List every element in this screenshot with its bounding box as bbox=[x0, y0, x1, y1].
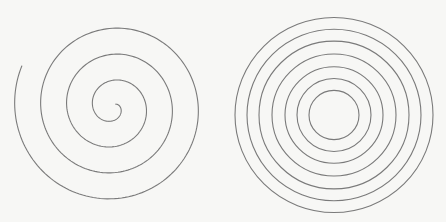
ring-4 bbox=[272, 54, 396, 176]
rings-group bbox=[235, 17, 433, 212]
spiral-panel bbox=[0, 0, 223, 222]
ring-1 bbox=[309, 90, 359, 139]
concentric-circles-panel bbox=[223, 0, 446, 222]
spiral-line bbox=[15, 28, 199, 199]
ring-3 bbox=[285, 67, 383, 164]
ring-7 bbox=[235, 17, 433, 212]
concentric-circles-figure bbox=[223, 0, 446, 222]
ring-6 bbox=[247, 29, 421, 200]
ring-2 bbox=[297, 79, 371, 152]
archimedean-spiral-figure bbox=[0, 0, 223, 222]
ring-5 bbox=[259, 41, 409, 189]
